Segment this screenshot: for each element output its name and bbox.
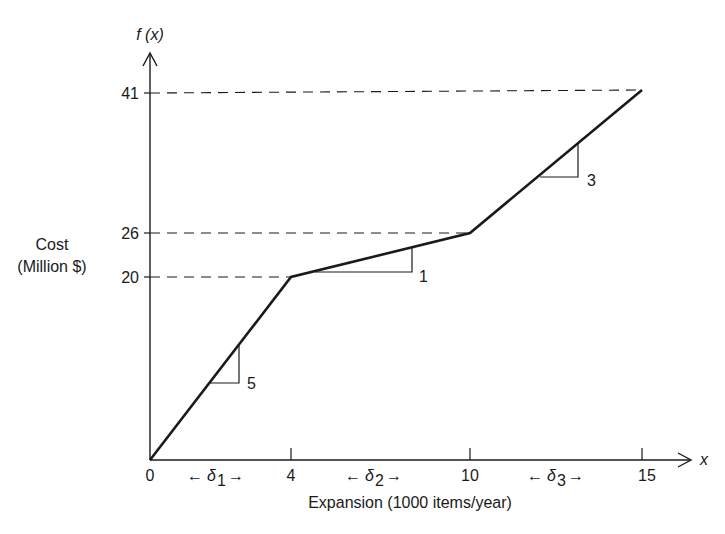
svg-text:→: →	[228, 467, 244, 484]
delta-label-2: ← δ 2 →	[345, 467, 402, 489]
svg-text:2: 2	[375, 472, 384, 489]
delta-label-1: ← δ 1 →	[187, 467, 244, 489]
svg-text:→: →	[386, 467, 402, 484]
x-axis-label: Expansion (1000 items/year)	[308, 494, 512, 511]
x-tick-label-4: 4	[287, 467, 296, 484]
y-axis-label-line-1: Cost	[36, 236, 69, 253]
svg-text:δ: δ	[207, 467, 217, 484]
cost-function-line	[150, 90, 642, 460]
y-tick-label-26: 26	[121, 225, 139, 242]
x-tick-label-10: 10	[461, 467, 479, 484]
x-tick-label-15: 15	[638, 467, 656, 484]
svg-text:←: ←	[527, 467, 543, 484]
y-axis-label-line-2: (Million $)	[17, 258, 86, 275]
svg-text:1: 1	[217, 472, 226, 489]
svg-text:δ: δ	[365, 467, 375, 484]
x-tick-label-0: 0	[146, 467, 155, 484]
svg-text:→: →	[568, 467, 584, 484]
y-axis-symbol: f (x)	[136, 26, 164, 43]
slope-label-1: 5	[247, 375, 256, 392]
ref-line-41	[150, 90, 642, 93]
delta-label-3: ← δ 3 →	[527, 467, 584, 489]
svg-text:←: ←	[187, 467, 203, 484]
svg-text:3: 3	[557, 472, 566, 489]
svg-text:δ: δ	[547, 467, 557, 484]
svg-text:←: ←	[345, 467, 361, 484]
slope-label-2: 1	[419, 268, 428, 285]
piecewise-cost-chart: 5 1 3 41 26 20 f (x) Cost (Million $) 0 …	[0, 0, 725, 534]
slope-label-3: 3	[587, 172, 596, 189]
y-tick-label-41: 41	[121, 85, 139, 102]
y-tick-label-20: 20	[121, 269, 139, 286]
x-axis-symbol: x	[699, 451, 709, 468]
